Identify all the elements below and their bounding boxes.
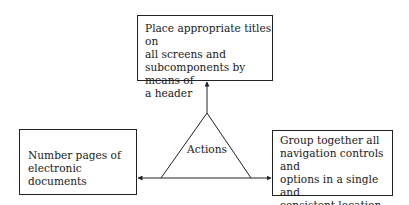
left-box-line: electronic documents [28, 162, 136, 188]
right-box-line: options in a single and [280, 173, 392, 199]
top-box: Place appropriate titles on all screens … [137, 15, 273, 81]
left-box-line: Number pages of [28, 149, 136, 162]
actions-label: Actions [176, 143, 238, 156]
left-box: Number pages of electronic documents [19, 129, 137, 195]
top-box-line: a header [145, 87, 272, 100]
right-box-line: consistent location [280, 199, 392, 205]
right-box: Group together all navigation controls a… [272, 130, 393, 196]
top-box-line: Place appropriate titles on [145, 22, 272, 48]
right-box-line: navigation controls and [280, 147, 392, 173]
right-box-line: Group together all [280, 134, 392, 147]
top-box-line: all screens and [145, 48, 272, 61]
top-box-line: subcomponents by means of [145, 61, 272, 87]
